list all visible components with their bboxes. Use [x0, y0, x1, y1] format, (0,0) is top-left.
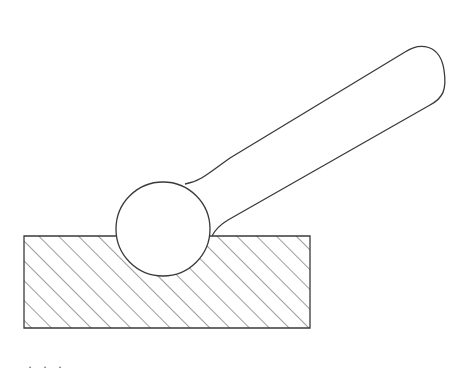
ball [116, 182, 210, 276]
caption-fragment: · · · [28, 360, 66, 370]
ball-and-socket-diagram [0, 0, 468, 370]
handle [185, 46, 445, 236]
